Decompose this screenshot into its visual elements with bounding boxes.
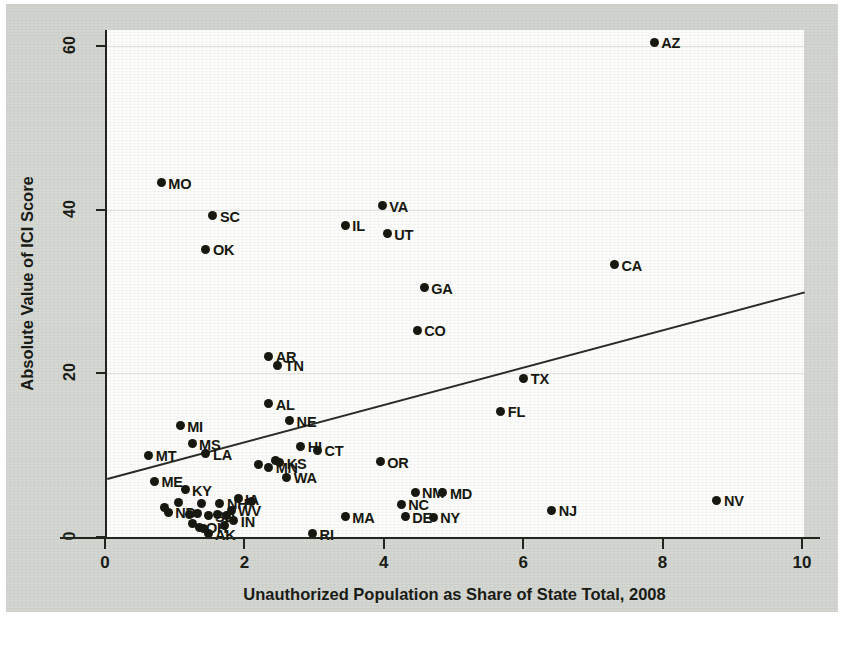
point-label-co: CO [424, 324, 445, 339]
point-label-ny: NY [440, 511, 460, 526]
y-axis-title: Absolute Value of ICI Score [18, 30, 40, 537]
scatter-point-ut [383, 229, 392, 238]
figure-container: Absolute Value of ICI Score 0204060 AZMO… [0, 0, 854, 654]
point-label-in: IN [241, 515, 255, 530]
scatter-point-nh [215, 499, 224, 508]
point-label-ky: KY [192, 484, 212, 499]
scatter-point-hi [296, 442, 305, 451]
scatter-point-nm [411, 488, 420, 497]
point-label-la: LA [213, 448, 232, 463]
point-label-ne: NE [297, 415, 317, 430]
point-label-va: VA [389, 200, 408, 215]
scatter-point [197, 499, 206, 508]
y-tick-label-0: 0 [61, 519, 79, 553]
y-tick-label-60: 60 [61, 28, 79, 62]
scatter-point-me [150, 477, 159, 486]
scatter-point-ar [264, 352, 273, 361]
point-label-ok: OK [213, 243, 234, 258]
scatter-point-ne [285, 416, 294, 425]
point-label-nj: NJ [559, 504, 577, 519]
scatter-point-co [413, 326, 422, 335]
scatter-point-wa [282, 473, 291, 482]
scatter-point-fl [496, 407, 505, 416]
x-axis-title: Unauthorized Population as Share of Stat… [105, 585, 804, 604]
y-tick-label-40: 40 [61, 192, 79, 226]
point-label-sc: SC [220, 210, 240, 225]
x-tick-label-4: 4 [379, 553, 388, 573]
x-tick-label-8: 8 [658, 553, 667, 573]
scatter-point-nj [547, 506, 556, 515]
scatter-point-il [341, 221, 350, 230]
point-label-al: AL [276, 398, 295, 413]
scatter-point-ca [610, 260, 619, 269]
point-label-md: MD [450, 487, 472, 502]
scatter-point-tn [273, 361, 282, 370]
scatter-point-de [401, 512, 410, 521]
point-label-ma: MA [352, 511, 374, 526]
scatter-point-mt [144, 451, 153, 460]
x-tick-6 [522, 539, 524, 549]
x-tick-label-2: 2 [240, 553, 249, 573]
point-label-il: IL [352, 219, 365, 234]
scatter-point-la [201, 449, 210, 458]
scatter-point-mo [157, 178, 166, 187]
x-tick-4 [383, 539, 385, 549]
point-label-ri: RI [320, 528, 334, 543]
scatter-point [254, 460, 263, 469]
scatter-point-mi [176, 421, 185, 430]
scatter-point-ok [201, 245, 210, 254]
x-tick-8 [662, 539, 664, 549]
x-tick-label-0: 0 [100, 553, 109, 573]
scatter-point-nv [712, 496, 721, 505]
y-tick-20 [96, 372, 105, 374]
point-label-tn: TN [285, 359, 304, 374]
x-tick-label-6: 6 [518, 553, 527, 573]
point-label-ut: UT [394, 228, 413, 243]
point-label-nd: ND [175, 506, 196, 521]
x-tick-10 [801, 539, 803, 549]
point-label-ga: GA [431, 282, 452, 297]
plot-inner: AZMOVASCILUTOKCAGACOARTNTXFLALNEMIHIMSCT… [107, 30, 804, 537]
scatter-point-ms [188, 439, 197, 448]
scatter-point-ny [429, 513, 438, 522]
point-label-ca: CA [621, 259, 642, 274]
scatter-point-ma [341, 512, 350, 521]
point-label-mo: MO [168, 177, 191, 192]
x-axis-line [60, 537, 820, 539]
scatter-point-md [438, 488, 447, 497]
scatter-point-az [650, 38, 659, 47]
x-tick-label-10: 10 [793, 553, 812, 573]
x-tick-2 [243, 539, 245, 549]
scatter-point-nc [397, 500, 406, 509]
scatter-point-mn [264, 463, 273, 472]
gridline-y-20 [107, 373, 804, 374]
point-label-or: OR [387, 456, 408, 471]
scatter-point-in [229, 516, 238, 525]
scatter-point-sc [208, 211, 217, 220]
point-label-tx: TX [531, 372, 549, 387]
scatter-point-al [264, 399, 273, 408]
x-tick-0 [104, 539, 106, 549]
point-label-me: ME [161, 475, 182, 490]
point-label-mi: MI [187, 420, 203, 435]
scatter-point-oh [195, 523, 204, 532]
scatter-point-ky [181, 485, 190, 494]
point-label-ct: CT [324, 444, 343, 459]
scatter-point-sd [204, 511, 213, 520]
y-tick-label-20: 20 [61, 355, 79, 389]
y-tick-40 [96, 209, 105, 211]
point-label-az: AZ [661, 36, 680, 51]
point-label-nv: NV [724, 494, 744, 509]
scatter-point-nd [164, 508, 173, 517]
scatter-point-ga [420, 283, 429, 292]
scatter-point-ct [313, 446, 322, 455]
scatter-point-tx [519, 374, 528, 383]
y-tick-60 [96, 45, 105, 47]
point-label-wa: WA [294, 471, 317, 486]
point-label-ak: AK [215, 528, 236, 543]
scatter-point-or [376, 457, 385, 466]
gridline-y-60 [107, 46, 804, 47]
point-label-fl: FL [508, 405, 525, 420]
point-label-mt: MT [156, 449, 177, 464]
plot-area: AZMOVASCILUTOKCAGACOARTNTXFLALNEMIHIMSCT… [105, 30, 804, 539]
